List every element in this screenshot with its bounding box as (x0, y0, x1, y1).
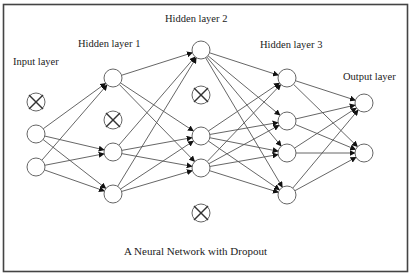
neuron (278, 144, 296, 162)
dropped-neuron (192, 86, 210, 104)
neuron (278, 186, 296, 204)
diagram-caption: A Neural Network with Dropout (124, 245, 267, 257)
neuron (104, 185, 122, 203)
neuron (104, 143, 122, 161)
neuron (192, 127, 210, 145)
dropped-neuron (27, 93, 45, 111)
diagram-canvas: Input layerHidden layer 1Hidden layer 2H… (0, 0, 411, 275)
neuron (27, 158, 45, 176)
neuron (192, 159, 210, 177)
layer-label-hidden1: Hidden layer 1 (78, 38, 140, 49)
dropped-neuron (104, 111, 122, 129)
neuron (104, 69, 122, 87)
neuron (278, 112, 296, 130)
neuron (192, 41, 210, 59)
neural-network-diagram: Input layerHidden layer 1Hidden layer 2H… (0, 0, 411, 275)
layer-label-hidden3: Hidden layer 3 (260, 39, 322, 50)
neuron (355, 94, 373, 112)
neuron (27, 125, 45, 143)
neuron (278, 69, 296, 87)
layer-label-input: Input layer (13, 56, 59, 67)
neuron (355, 144, 373, 162)
layer-label-hidden2: Hidden layer 2 (165, 13, 227, 24)
layer-label-output: Output layer (343, 71, 396, 82)
dropped-neuron (192, 204, 210, 222)
